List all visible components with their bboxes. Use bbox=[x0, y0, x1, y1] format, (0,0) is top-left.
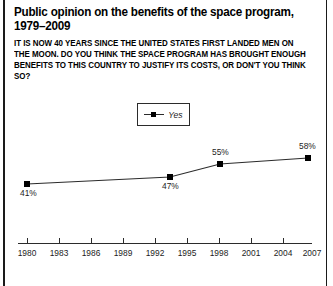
x-axis-tick bbox=[251, 238, 252, 243]
data-point-label: 55% bbox=[212, 147, 229, 157]
legend-line-marker-icon bbox=[144, 110, 164, 119]
x-axis-tick bbox=[123, 238, 124, 243]
x-axis-tick bbox=[187, 238, 188, 243]
x-axis-tick-label: 2004 bbox=[268, 248, 298, 258]
x-axis-tick bbox=[27, 238, 28, 243]
x-axis-tick bbox=[219, 238, 220, 243]
x-axis-line bbox=[18, 243, 312, 244]
x-axis-tick bbox=[283, 238, 284, 243]
data-point-marker bbox=[24, 181, 30, 187]
figure-container: Public opinion on the benefits of the sp… bbox=[0, 0, 333, 286]
chart-legend: Yes bbox=[137, 103, 190, 126]
x-axis-tick-label: 1980 bbox=[12, 248, 42, 258]
x-axis-tick-label: 1998 bbox=[204, 248, 234, 258]
data-point-label: 41% bbox=[20, 188, 37, 198]
legend-label-yes: Yes bbox=[168, 110, 182, 120]
legend-entry-yes: Yes bbox=[138, 104, 189, 125]
data-point-marker bbox=[167, 174, 173, 180]
x-axis-tick-label: 1986 bbox=[76, 248, 106, 258]
data-point-label: 47% bbox=[162, 181, 179, 191]
data-point-label: 58% bbox=[299, 141, 316, 151]
data-point-marker bbox=[217, 161, 223, 167]
x-axis-tick bbox=[91, 238, 92, 243]
x-axis-tick-label: 1989 bbox=[108, 248, 138, 258]
x-axis-tick-label: 1983 bbox=[44, 248, 74, 258]
x-axis-tick bbox=[155, 238, 156, 243]
x-axis-tick bbox=[59, 238, 60, 243]
x-axis-tick-label: 1995 bbox=[172, 248, 202, 258]
x-axis-tick-label: 2001 bbox=[236, 248, 266, 258]
x-axis-tick-label: 2007 bbox=[297, 248, 327, 258]
data-point-marker bbox=[305, 155, 311, 161]
x-axis-tick-label: 1992 bbox=[140, 248, 170, 258]
